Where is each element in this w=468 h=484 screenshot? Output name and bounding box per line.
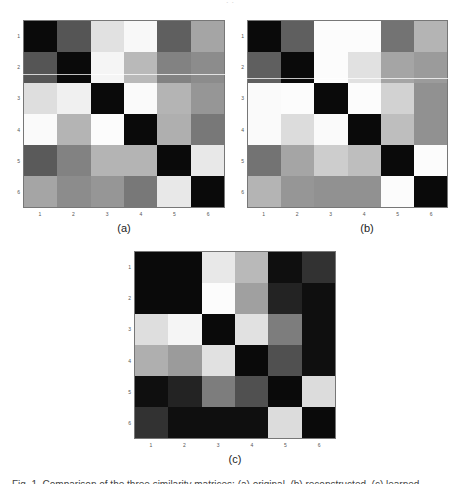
heatmap-cell	[281, 145, 314, 176]
heatmap-cell	[135, 283, 168, 314]
panel-label: (b)	[352, 222, 382, 234]
heatmap-cell	[124, 52, 157, 83]
heatmap-cell	[235, 314, 268, 345]
heatmap-cell	[268, 252, 301, 283]
heatmap-cell	[191, 145, 224, 176]
heatmap-cell	[268, 407, 301, 438]
y-tick-label: 4	[123, 358, 131, 364]
heatmap-cell	[381, 114, 414, 145]
y-tick-label: 2	[12, 64, 20, 70]
heatmap-cell	[414, 83, 447, 114]
heatmap-cell	[348, 83, 381, 114]
heatmap-cell	[381, 83, 414, 114]
heatmap-cell	[235, 283, 268, 314]
heatmap-cell	[157, 176, 190, 207]
heatmap-cell	[202, 252, 235, 283]
heatmap-cell	[124, 21, 157, 52]
heatmap-cell	[281, 114, 314, 145]
y-tick-label: 3	[236, 95, 244, 101]
y-tick-label: 6	[123, 420, 131, 426]
y-tick-label: 1	[123, 264, 131, 270]
heatmap-cell	[24, 83, 57, 114]
x-tick-label: 1	[259, 211, 269, 217]
heatmap-cell	[202, 376, 235, 407]
heatmap-cell	[302, 407, 335, 438]
heatmap-cell	[348, 176, 381, 207]
heatmap-cell	[57, 114, 90, 145]
heatmap-cell	[281, 83, 314, 114]
x-tick-label: 1	[35, 211, 45, 217]
heatmap-cell	[157, 21, 190, 52]
y-tick-label: 5	[236, 158, 244, 164]
scan-line-artifact	[247, 78, 448, 79]
heatmap-cell	[57, 52, 90, 83]
heatmap-cell	[248, 176, 281, 207]
heatmap-cell	[24, 52, 57, 83]
x-tick-label: 4	[359, 211, 369, 217]
heatmap-cell	[302, 345, 335, 376]
panel-label: (a)	[109, 222, 139, 234]
heatmap-cell	[57, 83, 90, 114]
heatmap-cell	[202, 283, 235, 314]
heatmap-cell	[191, 176, 224, 207]
heatmap-cell	[248, 21, 281, 52]
heatmap-cell	[248, 145, 281, 176]
heatmap-cell	[202, 345, 235, 376]
heatmap-cell	[348, 21, 381, 52]
heatmap-cell	[191, 114, 224, 145]
y-tick-label: 1	[236, 33, 244, 39]
x-tick-label: 1	[146, 442, 156, 448]
x-tick-label: 4	[136, 211, 146, 217]
heatmap-cell	[135, 252, 168, 283]
heatmap-cell	[235, 345, 268, 376]
heatmap-cell	[57, 176, 90, 207]
heatmap-cell	[168, 407, 201, 438]
heatmap-cell	[91, 145, 124, 176]
cut-off-header-text: · ·	[150, 0, 310, 4]
heatmap-cell	[24, 21, 57, 52]
x-tick-label: 3	[326, 211, 336, 217]
x-tick-label: 6	[426, 211, 436, 217]
heatmap-cell	[57, 145, 90, 176]
heatmap-cell	[91, 52, 124, 83]
x-tick-label: 6	[203, 211, 213, 217]
heatmap-cell	[168, 283, 201, 314]
heatmap-cell	[268, 345, 301, 376]
heatmap-cell	[268, 283, 301, 314]
heatmap-cell	[157, 52, 190, 83]
heatmap-cell	[381, 145, 414, 176]
y-tick-label: 6	[236, 189, 244, 195]
heatmap-cell	[124, 83, 157, 114]
x-tick-label: 2	[292, 211, 302, 217]
heatmap-cell	[302, 283, 335, 314]
scan-line-artifact	[23, 74, 225, 75]
heatmap-cell	[314, 114, 347, 145]
heatmap-cell	[168, 252, 201, 283]
heatmap-grid	[247, 20, 448, 208]
heatmap-cell	[91, 114, 124, 145]
heatmap-cell	[302, 314, 335, 345]
heatmap-cell	[414, 21, 447, 52]
heatmap-cell	[24, 145, 57, 176]
heatmap-cell	[248, 83, 281, 114]
y-tick-label: 2	[123, 295, 131, 301]
x-tick-label: 5	[170, 211, 180, 217]
heatmap-cell	[135, 376, 168, 407]
y-tick-label: 4	[12, 127, 20, 133]
heatmap-cell	[57, 21, 90, 52]
heatmap-cell	[24, 114, 57, 145]
heatmap-cell	[24, 176, 57, 207]
heatmap-cell	[314, 21, 347, 52]
x-tick-label: 5	[393, 211, 403, 217]
heatmap-cell	[314, 83, 347, 114]
x-tick-label: 6	[314, 442, 324, 448]
heatmap-grid	[23, 20, 225, 208]
heatmap-cell	[202, 407, 235, 438]
heatmap-cell	[124, 176, 157, 207]
x-tick-label: 2	[180, 442, 190, 448]
heatmap-cell	[348, 114, 381, 145]
heatmap-cell	[191, 21, 224, 52]
heatmap-cell	[281, 21, 314, 52]
heatmap-cell	[168, 376, 201, 407]
heatmap-cell	[135, 314, 168, 345]
